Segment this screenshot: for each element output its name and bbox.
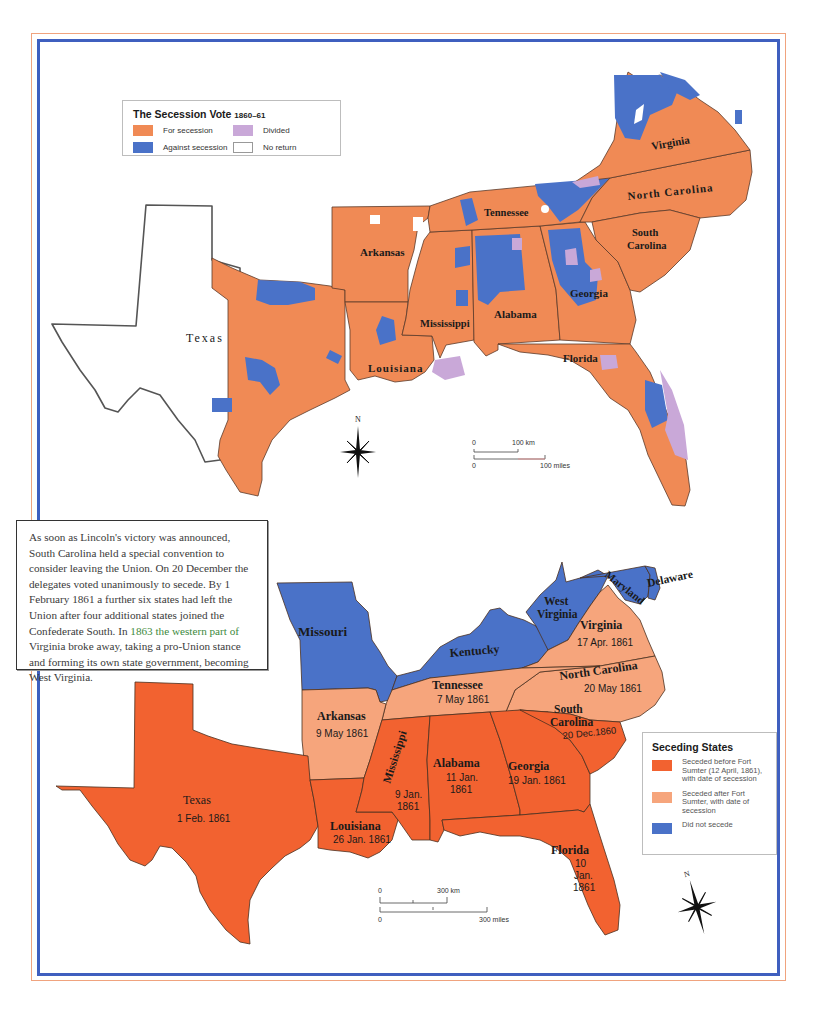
top-label-florida: Florida — [563, 352, 598, 364]
top-ga-divided-2 — [590, 268, 602, 282]
bottom-label-alabama: Alabama — [433, 756, 480, 770]
bottom-date-georgia: 19 Jan. 1861 — [508, 775, 566, 786]
top-texas-against-3 — [212, 398, 232, 412]
bottom-scale-km-label: 300 km — [437, 887, 460, 894]
secession-vote-legend-title: The Secession Vote 1860–61 — [133, 108, 330, 120]
seceding-states-legend: Seceding States Seceded before Fort Sumt… — [642, 732, 777, 855]
bottom-date-mississippi-1: 9 Jan. — [395, 789, 422, 800]
bottom-label-louisiana: Louisiana — [330, 819, 381, 833]
legend-label-divided: Divided — [263, 126, 290, 135]
swatch-divided — [233, 125, 253, 136]
swatch-seceded-after — [652, 792, 672, 803]
top-la-divided — [432, 356, 465, 380]
bottom-date-florida-3: 1861 — [573, 882, 596, 893]
top-label-south-carolina-1: South — [632, 227, 658, 238]
top-va-against-3 — [735, 110, 742, 124]
bottom-label-virginia: Virginia — [580, 618, 622, 632]
swatch-did-not-secede — [652, 823, 672, 834]
top-tn-noreturn — [541, 205, 549, 213]
top-ark-noreturn-2 — [413, 217, 423, 231]
narrative-text-box: As soon as Lincoln's victory was announc… — [16, 520, 268, 670]
legend-title-text: The Secession Vote — [133, 108, 231, 120]
legend-label-for-secession: For secession — [163, 126, 213, 135]
bottom-label-west-virginia-1: West — [544, 595, 568, 607]
top-label-alabama: Alabama — [494, 308, 537, 320]
top-ark-noreturn — [370, 215, 380, 224]
legend-label-no-return: No return — [263, 143, 296, 152]
legend-label-seceded-after: Seceded after Fort Sumter, with date of … — [682, 790, 767, 816]
bottom-scale-mi-label: 300 miles — [479, 916, 509, 923]
bottom-scale-bar — [380, 897, 487, 912]
top-al-divided — [512, 238, 522, 250]
top-compass-icon: N — [340, 415, 376, 478]
bottom-date-virginia: 17 Apr. 1861 — [577, 637, 634, 648]
bottom-date-tennessee: 7 May 1861 — [437, 694, 490, 705]
legend-label-seceded-before: Seceded before Fort Sumter (12 April, 18… — [682, 758, 767, 784]
narrative-text-part1: As soon as Lincoln's victory was announc… — [29, 531, 248, 637]
bottom-label-west-virginia-2: Virginia — [537, 608, 578, 621]
bottom-label-missouri: Missouri — [298, 624, 348, 639]
legend-label-did-not-secede: Did not secede — [682, 821, 733, 830]
swatch-no-return — [233, 142, 253, 153]
bottom-compass-icon: N — [668, 864, 724, 939]
top-label-louisiana: Louisiana — [368, 362, 423, 374]
legend-item-against-secession: Against secession — [133, 142, 233, 153]
bottom-date-florida-1: 10 — [575, 858, 587, 869]
swatch-seceded-before — [652, 760, 672, 771]
bottom-label-south-carolina-1: South — [554, 703, 583, 715]
swatch-against-secession — [133, 142, 153, 153]
bottom-label-texas: Texas — [183, 793, 211, 807]
top-scale-km-label: 100 km — [512, 439, 535, 446]
bottom-label-georgia: Georgia — [508, 759, 549, 773]
top-label-georgia: Georgia — [570, 287, 608, 299]
legend-item-divided: Divided — [233, 125, 323, 136]
top-label-mississippi: Mississippi — [420, 318, 470, 329]
secession-vote-legend: The Secession Vote 1860–61 For secession… — [122, 100, 341, 156]
bottom-label-tennessee: Tennessee — [432, 678, 484, 692]
bottom-florida — [442, 804, 620, 935]
bottom-date-north-carolina: 20 May 1861 — [584, 683, 642, 694]
legend-label-against-secession: Against secession — [163, 143, 227, 152]
bottom-label-florida: Florida — [551, 843, 589, 857]
top-label-south-carolina-2: Carolina — [627, 240, 667, 251]
top-fl-divided-2 — [600, 355, 618, 370]
legend-item-did-not-secede: Did not secede — [652, 821, 767, 834]
top-scale-mi-zero: 0 — [472, 462, 476, 469]
bottom-date-texas: 1 Feb. 1861 — [177, 813, 231, 824]
bottom-date-florida-2: Jan. — [574, 870, 593, 881]
top-label-tennessee: Tennessee — [484, 207, 529, 218]
bottom-scale-km-zero: 0 — [378, 887, 382, 894]
seceding-states-legend-title: Seceding States — [652, 741, 767, 753]
bottom-missouri — [277, 582, 397, 702]
legend-item-for-secession: For secession — [133, 125, 233, 136]
legend-title-years: 1860–61 — [234, 111, 265, 120]
top-ms-against-2 — [456, 290, 468, 306]
bottom-date-mississippi-2: 1861 — [397, 801, 420, 812]
legend-item-no-return: No return — [233, 142, 323, 153]
swatch-for-secession — [133, 125, 153, 136]
bottom-date-louisiana: 26 Jan. 1861 — [333, 834, 391, 845]
top-ga-divided — [565, 248, 578, 265]
top-label-texas: Texas — [186, 331, 224, 345]
bottom-label-south-carolina-2: Carolina — [550, 716, 593, 728]
bottom-scale-mi-zero: 0 — [378, 916, 382, 923]
top-label-arkansas: Arkansas — [360, 246, 405, 258]
legend-item-seceded-after: Seceded after Fort Sumter, with date of … — [652, 790, 767, 816]
bottom-label-arkansas: Arkansas — [317, 709, 366, 723]
top-compass-n: N — [355, 415, 361, 424]
top-scale-mi-label: 100 miles — [540, 462, 570, 469]
bottom-date-alabama-2: 1861 — [450, 784, 473, 795]
top-scale-km-zero: 0 — [472, 439, 476, 446]
top-scale-bar — [474, 449, 545, 459]
bottom-compass-n: N — [683, 869, 691, 879]
bottom-date-arkansas: 9 May 1861 — [316, 728, 369, 739]
top-ms-against — [455, 246, 470, 268]
narrative-text-highlight: 1863 the western part of — [130, 625, 239, 637]
top-florida — [498, 344, 690, 506]
legend-item-seceded-before: Seceded before Fort Sumter (12 April, 18… — [652, 758, 767, 784]
bottom-date-alabama-1: 11 Jan. — [446, 772, 478, 783]
